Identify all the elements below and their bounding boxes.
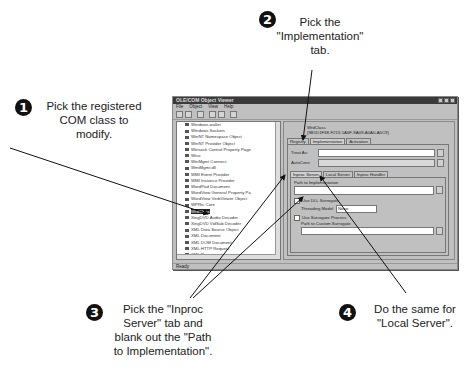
treat-as-field[interactable] <box>318 149 435 157</box>
object-icon <box>185 235 189 238</box>
auto-convert-browse-button[interactable] <box>437 159 444 167</box>
registry-icon[interactable] <box>230 111 237 118</box>
object-icon <box>185 130 189 133</box>
checkbox-icon <box>294 198 300 204</box>
step-1-callout: Pick the registered COM class to modify. <box>34 99 154 141</box>
maximize-button[interactable] <box>444 98 449 103</box>
object-icon <box>185 160 189 163</box>
custom-surrogate-browse-button[interactable] <box>436 227 443 235</box>
object-icon <box>185 142 189 145</box>
checkbox-icon <box>294 215 300 221</box>
auto-convert-field <box>318 159 435 167</box>
step-4-callout: Do the same for "Local Server". <box>365 302 465 330</box>
object-icon <box>185 216 189 219</box>
object-icon <box>185 210 189 213</box>
details-panel: WrdClass {9B1D1F68-F213-1A6F-9A09-A0A0-A… <box>283 121 455 260</box>
close-button[interactable] <box>450 98 455 103</box>
step-3-callout: Pick the "Inproc Server" tab and blank o… <box>108 302 218 358</box>
threading-model-select[interactable]: None <box>336 205 377 213</box>
expert-icon[interactable] <box>197 111 204 118</box>
clsid-value: {9B1D1F68-F213-1A6F-9A09-A0A0-A0C9} <box>287 130 389 135</box>
inproc-server-page: Path to Implementation Use DLL Surrogate… <box>290 177 446 253</box>
object-icon <box>185 222 189 225</box>
custom-surrogate-input[interactable] <box>301 227 434 235</box>
treat-as-browse-button[interactable] <box>437 149 444 157</box>
copy-icon[interactable] <box>209 111 216 118</box>
threading-model-label: Threading Model <box>301 206 333 211</box>
class-header: WrdClass {9B1D1F68-F213-1A6F-9A09-A0A0-A… <box>287 125 389 135</box>
menu-view[interactable]: View <box>208 104 218 110</box>
object-icon <box>185 173 189 176</box>
object-icon <box>185 123 189 126</box>
step-2-callout: Pick the "Implementation" tab. <box>265 15 375 57</box>
object-icon <box>185 241 189 244</box>
object-icon <box>185 191 189 194</box>
menu-help[interactable]: Help <box>224 104 233 110</box>
title-bar: OLE/COM Object Viewer <box>173 97 457 104</box>
menu-file[interactable]: File <box>176 104 183 110</box>
object-icon <box>185 167 189 170</box>
menu-object[interactable]: Object <box>189 104 202 110</box>
ole-com-viewer-window: OLE/COM Object Viewer File Object View H… <box>172 96 458 270</box>
object-icon <box>185 136 189 139</box>
use-dll-surrogate-checkbox[interactable]: Use DLL Surrogate <box>294 198 339 204</box>
path-to-implementation-label: Path to Implementation <box>294 180 338 185</box>
connect-icon[interactable] <box>176 111 183 118</box>
object-icon <box>185 154 189 157</box>
object-icon <box>185 247 189 250</box>
object-icon <box>185 148 189 151</box>
toolbar <box>173 110 457 120</box>
auto-convert-label: AutoConv <box>291 160 310 165</box>
path-browse-button[interactable] <box>436 186 443 194</box>
step-1-badge: 1 <box>15 99 32 116</box>
treat-as-label: Treat As: <box>291 150 308 155</box>
custom-surrogate-label: Path to Custom Surrogate <box>301 221 351 226</box>
path-to-implementation-input[interactable] <box>294 186 434 195</box>
window-title: OLE/COM Object Viewer <box>176 97 234 103</box>
object-icon <box>185 259 189 260</box>
minimize-button[interactable] <box>438 98 443 103</box>
object-icon <box>185 179 189 182</box>
object-icon <box>185 198 189 201</box>
step-4-badge: 4 <box>339 304 356 321</box>
object-icon <box>185 204 189 207</box>
step-3-badge: 3 <box>86 304 103 321</box>
object-tree[interactable]: Windows wallet Windows Sockets WinNT Nam… <box>176 121 281 260</box>
tree-vertical-scrollbar[interactable] <box>275 122 280 259</box>
implementation-page: Treat As: AutoConv Inproc Server Local S… <box>287 144 449 256</box>
status-text: Ready <box>176 264 189 269</box>
object-icon <box>185 229 189 232</box>
status-bar: Ready <box>173 263 457 269</box>
object-icon <box>185 185 189 188</box>
disconnect-icon[interactable] <box>185 111 192 118</box>
tree-horizontal-scrollbar[interactable] <box>177 254 276 259</box>
view-icon[interactable] <box>218 111 225 118</box>
